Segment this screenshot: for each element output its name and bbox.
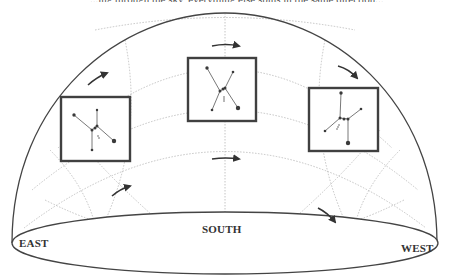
arrow-upper-south [212,45,239,47]
celestial-dome-diagram [0,0,449,280]
arrow-upper-west [338,66,357,78]
horizon-ellipse [12,212,438,274]
west-label: WEST [401,242,434,254]
arrow-lower-east [112,186,130,196]
constellation-box-south [188,58,256,121]
constellation-box-west [309,88,378,151]
arrow-lower-south [212,158,239,159]
arrow-upper-east [88,73,107,85]
east-label: EAST [19,237,49,249]
south-label: SOUTH [202,223,242,235]
constellation-box-east [61,97,130,161]
